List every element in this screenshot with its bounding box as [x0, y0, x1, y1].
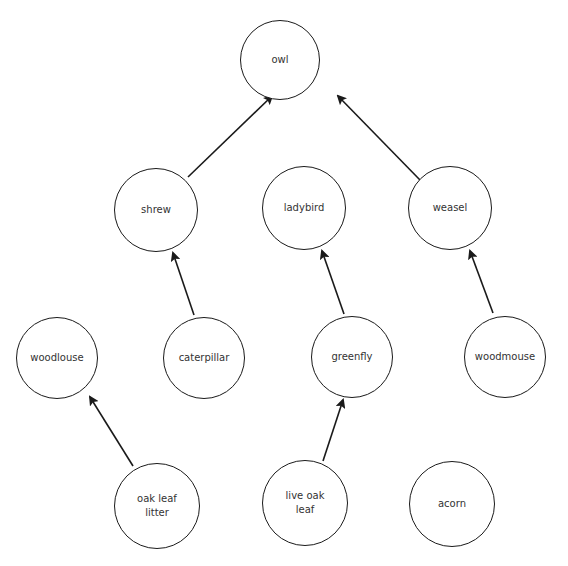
node-label: owl: [271, 53, 288, 67]
node-owl: owl: [240, 20, 320, 100]
node-acorn: acorn: [409, 461, 495, 547]
node-ladybird: ladybird: [262, 166, 346, 250]
arrow-caterpillar-to-shrew: [173, 253, 194, 315]
arrow-weasel-to-owl: [338, 96, 420, 180]
arrow-live-oak-leaf-to-greenfly: [323, 400, 343, 461]
node-label: greenfly: [331, 350, 372, 364]
node-label: acorn: [438, 497, 466, 511]
node-oak-leaf-litter: oak leaf litter: [114, 463, 200, 549]
arrow-shrew-to-owl: [188, 96, 272, 177]
node-shrew: shrew: [114, 168, 198, 252]
node-label: shrew: [141, 203, 171, 217]
food-web-diagram: owlshrewladybirdweaselwoodlousecaterpill…: [0, 0, 568, 566]
arrow-greenfly-to-ladybird: [322, 251, 344, 314]
node-label: caterpillar: [179, 351, 230, 365]
node-live-oak-leaf: live oak leaf: [262, 460, 348, 546]
node-label: oak leaf litter: [137, 492, 177, 520]
node-caterpillar: caterpillar: [163, 317, 245, 399]
node-label: woodlouse: [30, 351, 83, 365]
node-woodmouse: woodmouse: [464, 316, 546, 398]
node-weasel: weasel: [408, 166, 492, 250]
node-label: weasel: [433, 201, 468, 215]
node-woodlouse: woodlouse: [16, 317, 98, 399]
node-label: ladybird: [284, 201, 325, 215]
node-label: woodmouse: [475, 350, 535, 364]
node-label: live oak leaf: [286, 489, 325, 517]
node-greenfly: greenfly: [311, 316, 393, 398]
arrow-woodmouse-to-weasel: [470, 251, 493, 313]
arrow-oak-leaf-litter-to-woodlouse: [90, 397, 133, 466]
